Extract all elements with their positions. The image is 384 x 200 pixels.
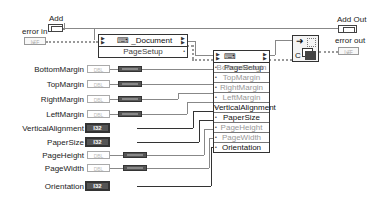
ref-out-icon: ▶▶ [181,36,185,44]
control-terminal-page-height[interactable]: DBL [87,151,110,159]
pagesetup-refnum-up [275,40,276,55]
document-refnum-down [195,41,196,55]
document-refnum-out-wire [187,41,195,42]
control-terminal-vertical-alignment[interactable]: I32 [85,123,110,133]
control-terminal-bottom-margin[interactable]: DBL [87,65,110,73]
property-row-orientation[interactable]: •Orientation [214,143,269,152]
property-row-left-margin[interactable]: •LeftMargin [214,93,269,103]
control-label-vertical-alignment: VerticalAlignment [22,124,84,133]
document-node-pagesetup-row[interactable]: PageSetup • [99,47,187,56]
error-in-wire [46,41,98,43]
coerce-to-variant-icon [123,152,147,158]
property-row-page-width[interactable]: •PageWidth [214,133,269,143]
control-terminal-right-margin[interactable]: DBL [87,95,110,103]
add-label: Add [49,14,63,23]
error-out-terminal[interactable]: I∉F [338,47,359,55]
plug-icon: ⌨ [117,36,129,45]
ref-out-icon: ▶▶ [263,52,267,60]
document-refnum-to-pagesetup [195,55,213,56]
control-terminal-left-margin[interactable]: DBL [87,110,110,118]
property-row-paper-size[interactable]: •PaperSize [214,113,269,123]
control-label-orientation: Orientation [45,182,84,191]
coerce-to-variant-icon [118,66,142,72]
coerce-to-variant-icon [123,165,147,171]
right-margin-wire-c [178,93,213,94]
paper-size-wire-c [199,120,213,121]
vertical-alignment-wire-a [137,128,193,129]
folder-icon [305,51,316,60]
orientation-wire-b [211,147,212,186]
orientation-wire-a [137,186,211,187]
close-error-out [319,51,338,53]
page-width-wire-b [209,138,210,168]
ref-in-icon: ▶▶ [101,36,105,44]
input-pin-icon: • [215,95,217,100]
add-out-terminal[interactable] [338,25,357,33]
error-out-label: error out [335,36,365,45]
input-pin-icon: • [215,115,217,120]
refnum-icon [343,27,355,33]
control-label-page-width: PageWidth [45,164,84,173]
vertical-alignment-wire-c [193,111,213,112]
refnum-glyph-icon [307,38,316,47]
coerce-to-variant-icon [118,111,142,117]
arrow-right-icon: ➜ [296,37,304,46]
input-pin-icon: • [215,75,217,80]
add-terminal[interactable] [48,24,63,32]
coerce-to-variant-icon [118,96,142,102]
document-node-header: ▶▶ ⌨ _Document ▶▶ [99,35,187,47]
control-label-paper-size: PaperSize [47,138,84,147]
control-label-bottom-margin: BottomMargin [34,65,84,74]
error-in-label: error in [22,27,47,36]
plug-icon: ⌨ [224,52,236,61]
property-row-vertical-alignment[interactable]: •VerticalAlignment [214,103,269,113]
add-out-wire [62,28,338,29]
add-out-label: Add Out [337,15,366,24]
control-label-left-margin: LeftMargin [46,110,84,119]
close-reference-node[interactable]: ➜ C [292,35,319,62]
left-margin-wire-c [187,102,213,103]
property-row-top-margin[interactable]: •TopMargin [214,73,269,83]
control-terminal-paper-size[interactable]: I32 [85,137,110,147]
paper-size-wire-a [137,142,199,143]
property-row-bottom-margin[interactable]: •BottomMargin [214,63,269,73]
control-terminal-page-width[interactable]: DBL [87,164,110,172]
property-row-page-height[interactable]: •PageHeight [214,123,269,133]
add-branch-up [94,28,95,40]
input-pin-icon: • [215,105,217,110]
refnum-icon [51,26,63,32]
control-terminal-top-margin[interactable]: DBL [87,80,110,88]
pagesetup-error-out [269,59,292,61]
control-label-top-margin: TopMargin [47,80,84,89]
left-margin-wire-b [187,102,188,114]
error-to-pagesetup [192,59,213,61]
document-property-node[interactable]: ▶▶ ⌨ _Document ▶▶ PageSetup • [98,34,188,58]
paper-size-wire-b [199,120,200,142]
input-pin-icon: • [215,125,217,130]
input-pin-icon: • [215,145,217,150]
document-node-title: _Document [131,36,172,45]
control-label-right-margin: RightMargin [41,95,84,104]
error-in-terminal[interactable]: I∉F [24,37,46,45]
input-pin-icon: • [215,85,217,90]
page-height-wire-b [204,129,205,155]
pagesetup-property-node[interactable]: ▶▶ ⌨ PageSetup ▶▶ •BottomMargin •TopMarg… [213,50,270,153]
pagesetup-node-header: ▶▶ ⌨ PageSetup ▶▶ [214,51,269,63]
close-c-icon: C [295,51,301,60]
input-pin-icon: • [215,65,217,70]
vertical-alignment-wire-b [193,111,194,128]
property-row-right-margin[interactable]: •RightMargin [214,83,269,93]
error-doc-down [192,45,194,59]
page-height-wire-c [204,129,213,130]
coerce-to-variant-icon [118,81,142,87]
control-label-page-height: PageHeight [42,151,84,160]
ref-in-icon: ▶▶ [216,52,220,60]
control-terminal-orientation[interactable]: I32 [85,181,110,191]
output-pin-icon: • [183,49,185,54]
input-pin-icon: • [215,135,217,140]
pagesetup-refnum-to-close [275,40,292,41]
